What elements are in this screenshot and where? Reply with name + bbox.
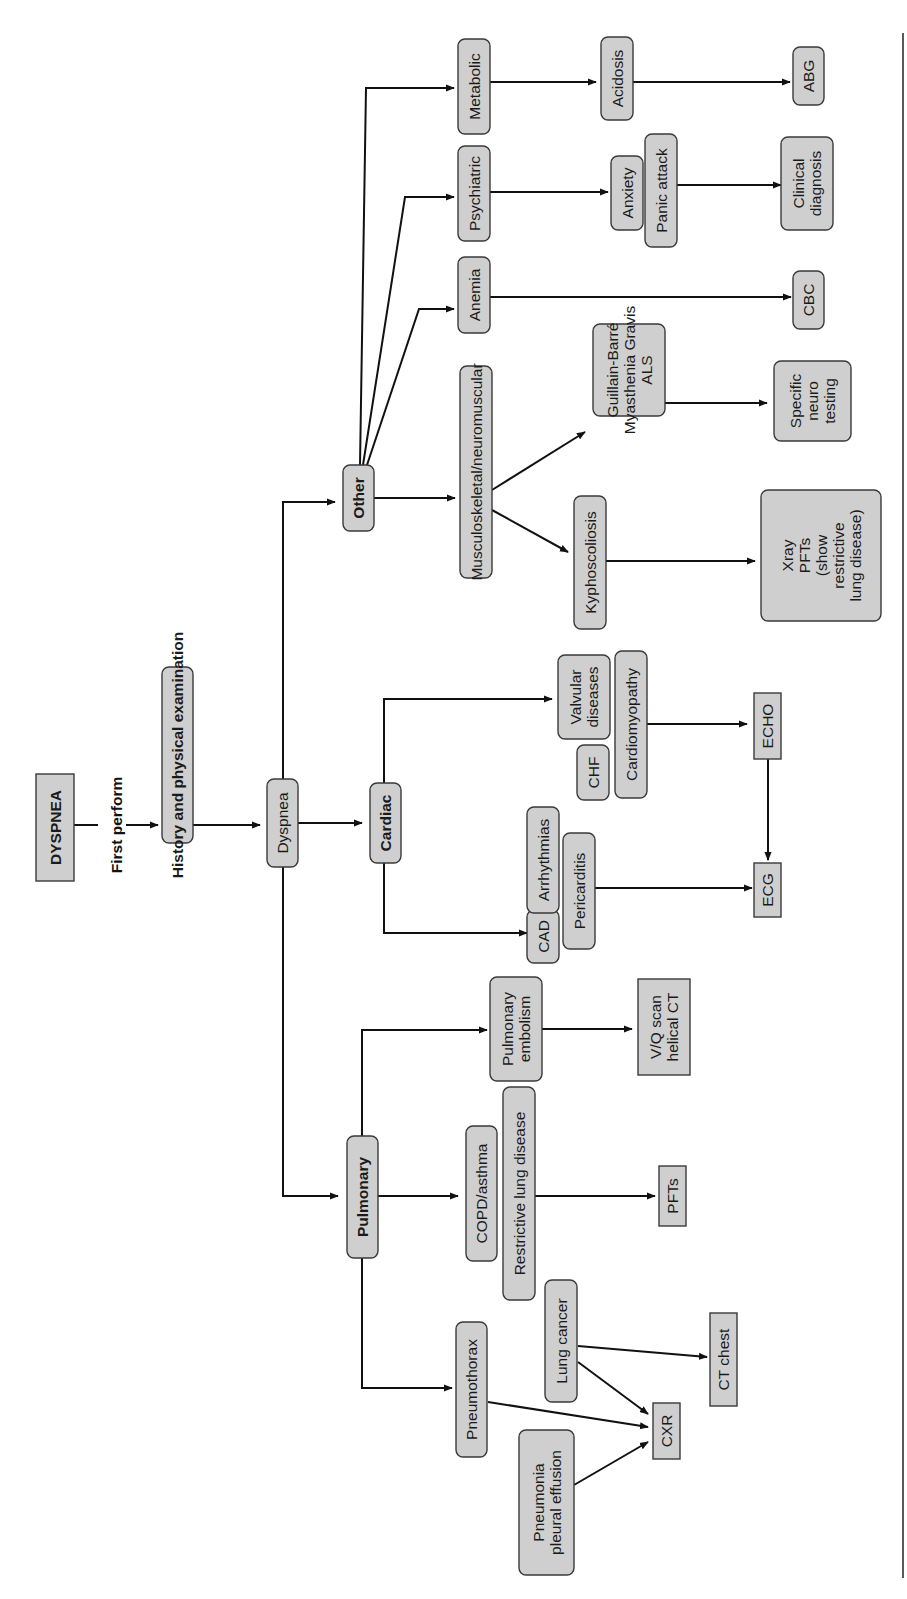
node-label: History and physical examination [169, 632, 186, 878]
node-label: ABG [800, 60, 817, 93]
node-acidosis: Acidosis [601, 37, 633, 120]
node-cardiomyopathy: Cardiomyopathy [615, 651, 647, 798]
node-label: V/Q scanhelical CT [647, 992, 681, 1061]
node-ct-chest: CT chest [710, 1313, 737, 1406]
node-cxr: CXR [653, 1403, 680, 1459]
node-pe: Pulmonaryembolism [490, 977, 542, 1081]
arrow-dyspnea-to-other [283, 502, 335, 780]
node-abg: ABG [793, 47, 824, 105]
node-label: Acidosis [609, 49, 626, 107]
arrow-dyspnea-to-pulmonary [283, 866, 338, 1196]
node-label: ECG [759, 873, 776, 907]
node-copd: COPD/asthma [466, 1126, 497, 1261]
node-label: CXR [658, 1415, 675, 1448]
node-history: History and physical examination [162, 632, 193, 878]
node-neuro-test: Specificneurotesting [774, 361, 851, 441]
node-cardiac: Cardiac [370, 783, 401, 863]
node-label: Arrhythmias [535, 818, 552, 901]
node-label: PFTs [664, 1178, 681, 1214]
node-label: Panic attack [653, 148, 670, 233]
node-cbc: CBC [793, 271, 824, 329]
node-label: Cardiac [377, 794, 394, 851]
node-label: Pericarditis [571, 852, 588, 929]
node-ecg: ECG [754, 863, 781, 917]
node-label: Pneumoniapleural effusion [530, 1450, 564, 1555]
node-label: Pulmonary [354, 1157, 371, 1237]
node-label: Anemia [466, 268, 483, 321]
node-xray-pfts: XrayPFTs(showrestrictivelung disease) [761, 490, 881, 621]
node-neuro-dz: Guillain-BarréMyasthenia GravisALS [593, 306, 665, 435]
node-pneumonia: Pneumoniapleural effusion [519, 1430, 574, 1575]
dyspnea-flowchart: DYSPNEAHistory and physical examinationD… [0, 0, 907, 1599]
node-psychiatric: Psychiatric [458, 146, 490, 241]
node-label: Clinicaldiagnosis [790, 151, 824, 217]
node-label: Psychiatric [466, 156, 483, 231]
node-label: Restrictive lung disease [511, 1112, 528, 1276]
node-label: Metabolic [466, 53, 483, 120]
node-valvular: Valvulardiseases [558, 655, 610, 739]
node-label: Kyphoscoliosis [582, 511, 599, 614]
arrow-lungcancer-to-cxr [578, 1362, 648, 1414]
node-pfts: PFTs [659, 1166, 686, 1226]
node-musculo: Musculoskeletal/neuromuscular [460, 363, 492, 580]
node-label: DYSPNEA [47, 790, 64, 865]
node-label: Musculoskeletal/neuromuscular [468, 363, 485, 580]
node-echo: ECHO [754, 693, 781, 759]
node-chf: CHF [577, 745, 609, 800]
arrow-pneumonia-to-cxr [574, 1442, 648, 1485]
arrow-pneumothorax-to-cxr [488, 1402, 648, 1427]
node-label: Other [350, 477, 367, 518]
node-label: Specificneurotesting [787, 374, 838, 429]
node-label: Lung cancer [553, 1298, 570, 1383]
node-label: CHF [585, 757, 602, 789]
node-kypho: Kyphoscoliosis [574, 496, 606, 629]
arrow-pulmonary-to-pneumothorax [362, 1258, 452, 1388]
node-vq: V/Q scanhelical CT [638, 979, 690, 1075]
node-label: CBC [800, 284, 817, 317]
node-label: Dyspnea [274, 792, 291, 854]
arrow-other-to-psychiatric [363, 197, 454, 465]
node-restrictive: Restrictive lung disease [503, 1087, 535, 1300]
node-label: Anxiety [619, 167, 636, 218]
arrow-lungcancer-to-ctchest [578, 1346, 707, 1357]
node-cad: CAD [527, 910, 559, 963]
node-label: Pneumothorax [463, 1339, 480, 1440]
node-label: CAD [535, 920, 552, 953]
node-clinical: Clinicaldiagnosis [781, 137, 833, 230]
node-label: COPD/asthma [473, 1143, 490, 1243]
node-other: Other [343, 465, 374, 531]
node-dyspnea-title: DYSPNEA [36, 774, 74, 881]
node-label: CT chest [715, 1328, 732, 1390]
arrow-pulmonary-to-pe [362, 1030, 487, 1136]
node-pulmonary: Pulmonary [347, 1136, 378, 1258]
first-perform-label: First perform [108, 777, 125, 873]
node-lung-cancer: Lung cancer [545, 1280, 577, 1402]
node-dyspnea: Dyspnea [267, 779, 298, 867]
node-label: ECHO [759, 704, 776, 749]
node-arrhythmias: Arrhythmias [527, 807, 559, 913]
arrow-other-to-anemia [367, 309, 454, 465]
node-label: Valvulardiseases [567, 666, 601, 727]
node-anemia: Anemia [458, 257, 490, 333]
arrow-cardiac-to-valvular [384, 699, 552, 785]
node-metabolic: Metabolic [458, 39, 490, 134]
node-label: Cardiomyopathy [623, 668, 640, 781]
node-pneumothorax: Pneumothorax [456, 1322, 487, 1457]
node-label: Pulmonaryembolism [499, 992, 533, 1066]
arrow-other-to-metabolic [360, 88, 454, 465]
node-anxiety: Anxiety [611, 156, 643, 230]
node-panic: Panic attack [645, 134, 677, 247]
arrow-cardiac-to-cad [384, 862, 527, 933]
node-pericarditis: Pericarditis [563, 833, 595, 949]
arrow-musculo-to-neuro [492, 432, 585, 490]
arrow-musculo-to-kypho [492, 510, 568, 552]
